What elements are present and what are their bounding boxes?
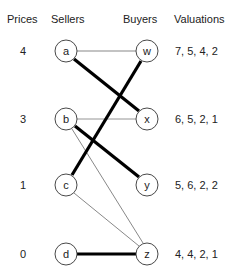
- svg-text:c: c: [63, 179, 69, 191]
- header-buyers: Buyers: [123, 13, 158, 25]
- seller-node-c: c: [55, 174, 77, 196]
- edge-c-z: [74, 193, 139, 246]
- svg-text:y: y: [144, 179, 150, 191]
- price-a: 4: [20, 45, 26, 57]
- svg-text:x: x: [144, 113, 150, 125]
- seller-node-a: a: [55, 40, 77, 62]
- svg-text:z: z: [144, 248, 150, 260]
- svg-text:d: d: [63, 248, 69, 260]
- edge-b-z: [72, 129, 143, 243]
- price-c: 1: [20, 179, 26, 191]
- valuations-z: 4, 4, 2, 1: [175, 248, 218, 260]
- svg-text:b: b: [63, 113, 69, 125]
- valuations-y: 5, 6, 2, 2: [175, 179, 218, 191]
- valuations-w: 7, 5, 4, 2: [175, 45, 218, 57]
- buyer-node-x: x: [136, 108, 158, 130]
- price-b: 3: [20, 113, 26, 125]
- buyer-node-y: y: [136, 174, 158, 196]
- price-d: 0: [20, 248, 26, 260]
- svg-text:a: a: [63, 45, 70, 57]
- buyer-node-w: w: [136, 40, 158, 62]
- buyer-node-z: z: [136, 243, 158, 265]
- seller-node-d: d: [55, 243, 77, 265]
- header-prices: Prices: [7, 13, 38, 25]
- svg-text:w: w: [142, 45, 151, 57]
- edge-c-w: [72, 61, 141, 175]
- bipartite-market-diagram: Prices Sellers Buyers Valuations 4 a w 7…: [0, 0, 232, 277]
- edge-a-x: [74, 59, 139, 111]
- seller-node-b: b: [55, 108, 77, 130]
- valuations-x: 6, 5, 2, 1: [175, 113, 218, 125]
- header-sellers: Sellers: [51, 13, 85, 25]
- header-valuations: Valuations: [174, 13, 225, 25]
